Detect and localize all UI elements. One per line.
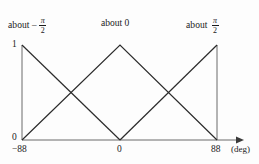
x-axis-unit-label: (deg): [231, 145, 250, 154]
label-right-fraction: π2: [212, 17, 219, 35]
label-left-prefix: about: [8, 21, 30, 31]
label-left-fraction: π2: [39, 17, 46, 35]
label-right-denominator: 2: [212, 26, 218, 35]
x-axis-arrow-icon: [236, 137, 244, 144]
x-axis-tick-0: 0: [117, 145, 122, 155]
fuzzy-membership-figure: about−π2 about 0 aboutπ2 1 0 −88 0 88 (d…: [0, 0, 259, 164]
x-axis-tick-minus-88: −88: [12, 145, 27, 155]
label-left-denominator: 2: [40, 26, 46, 35]
label-left-numerator: π: [40, 17, 46, 26]
label-left-sign: −: [32, 21, 38, 31]
label-right-prefix: about: [186, 21, 208, 31]
series-about-zero: [22, 45, 217, 140]
label-about-minus-pi-over-2: about−π2: [8, 17, 46, 35]
x-axis-tick-88: 88: [211, 145, 221, 155]
y-axis-tick-0: 0: [12, 133, 17, 143]
label-about-pi-over-2: aboutπ2: [186, 17, 219, 35]
label-right-numerator: π: [212, 17, 218, 26]
label-about-zero: about 0: [101, 19, 129, 29]
y-axis-tick-1: 1: [12, 40, 17, 50]
